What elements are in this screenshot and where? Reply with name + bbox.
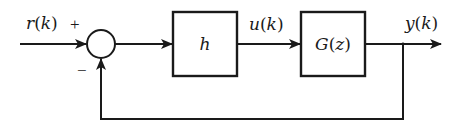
controller-label: h [200, 34, 211, 54]
minus-sign: − [77, 61, 87, 80]
plant-label: G(z) [315, 34, 351, 54]
plus-sign: + [70, 15, 80, 34]
output-label-y: y(k) [404, 13, 438, 33]
input-label-r: r(k) [26, 13, 58, 33]
control-label-u: u(k) [249, 14, 284, 34]
summing-junction [87, 30, 115, 58]
branch-point [402, 43, 405, 46]
block-diagram: r(k) + − h u(k) G(z) y(k) [0, 0, 457, 126]
